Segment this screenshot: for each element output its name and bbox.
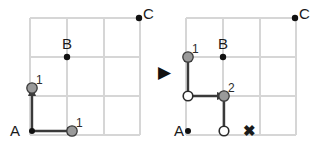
right-label-B: B bbox=[218, 36, 228, 51]
right-panel-graphics bbox=[0, 0, 323, 161]
right-grid bbox=[186, 18, 296, 135]
cross-mark-icon: ✖ bbox=[243, 123, 256, 138]
right-token-label-1: 1 bbox=[192, 43, 199, 55]
right-token-label-2: 2 bbox=[228, 82, 235, 94]
right-open-node-bottom bbox=[219, 126, 229, 136]
right-panel-after-state: A B C 1 2 ✖ bbox=[0, 0, 323, 161]
right-point-A bbox=[185, 128, 191, 134]
right-point-C bbox=[292, 15, 298, 21]
right-label-C: C bbox=[299, 6, 310, 21]
right-open-node-left bbox=[183, 91, 193, 101]
right-label-A: A bbox=[174, 123, 184, 138]
right-point-B bbox=[220, 54, 226, 60]
figure-canvas: A B C 1 1 ▶ bbox=[0, 0, 323, 161]
